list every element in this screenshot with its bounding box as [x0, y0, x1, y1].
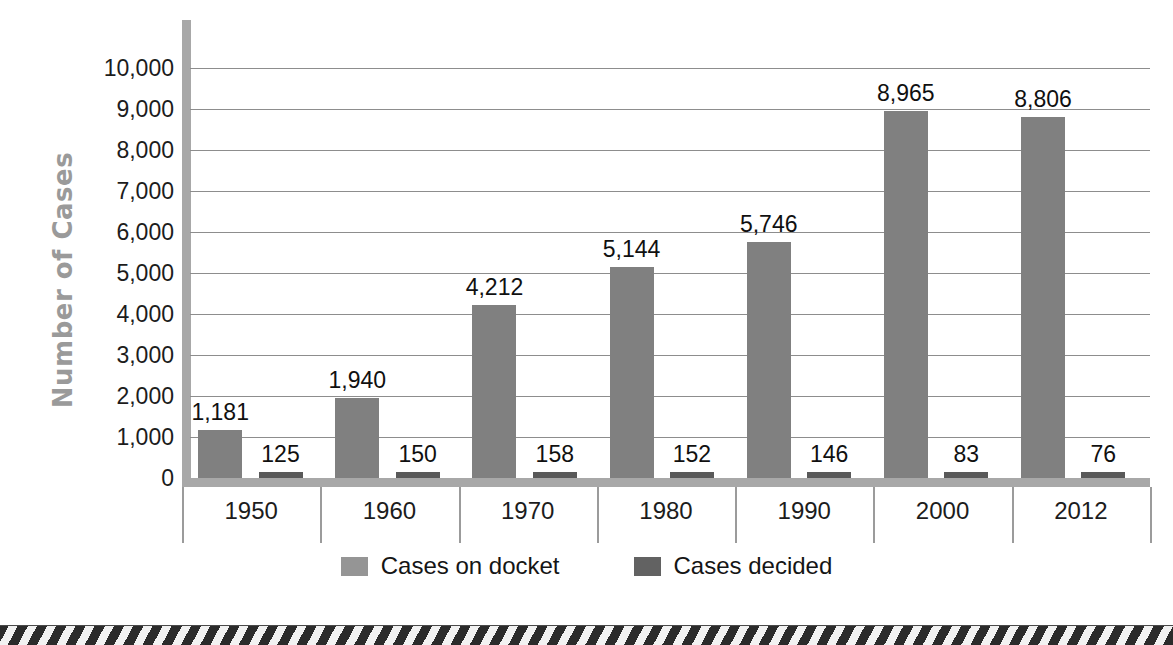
bar-group: 5,144152	[601, 20, 738, 478]
y-tick-label: 2,000	[54, 383, 174, 410]
legend-item[interactable]: Cases on docket	[341, 552, 560, 580]
bar-group: 1,181125	[190, 20, 327, 478]
bar-value-label: 8,806	[1014, 86, 1072, 113]
y-tick-label: 7,000	[54, 178, 174, 205]
x-tick-label: 2000	[873, 497, 1011, 525]
x-axis-category-band: 1950196019701980199020002012	[182, 487, 1150, 543]
bar-value-label: 125	[261, 441, 299, 468]
bar-cases-on-docket[interactable]: 1,181	[198, 430, 242, 478]
legend-label: Cases on docket	[381, 552, 560, 580]
y-tick-label: 8,000	[54, 137, 174, 164]
bar-cases-decided[interactable]: 152	[670, 472, 714, 478]
bar-value-label: 146	[810, 441, 848, 468]
bar-group: 4,212158	[464, 20, 601, 478]
x-tick-label: 2012	[1012, 497, 1150, 525]
y-tick-label: 5,000	[54, 260, 174, 287]
bar-cases-on-docket[interactable]: 5,746	[747, 242, 791, 478]
x-axis-category-cell: 1980	[597, 487, 735, 543]
x-tick-label: 1960	[320, 497, 458, 525]
bar-group: 5,746146	[739, 20, 876, 478]
bar-value-label: 152	[673, 441, 711, 468]
bar-groups: 1,1811251,9401504,2121585,1441525,746146…	[190, 20, 1150, 478]
bar-value-label: 1,181	[191, 399, 249, 426]
bar-cases-decided[interactable]: 76	[1081, 472, 1125, 478]
y-tick-label: 10,000	[54, 55, 174, 82]
x-axis-category-cell: 1970	[459, 487, 597, 543]
bar-value-label: 5,746	[740, 211, 798, 238]
x-axis-line	[182, 478, 1150, 487]
x-axis-category-cell: 2000	[873, 487, 1011, 543]
x-tick-label: 1970	[459, 497, 597, 525]
y-tick-label: 9,000	[54, 96, 174, 123]
legend-label: Cases decided	[674, 552, 833, 580]
bar-group: 8,80676	[1013, 20, 1150, 478]
x-axis-tick-separator	[873, 487, 875, 543]
bar-cases-decided[interactable]: 125	[259, 472, 303, 478]
x-tick-label: 1950	[182, 497, 320, 525]
bar-cases-on-docket[interactable]: 1,940	[335, 398, 379, 478]
x-axis-tick-separator	[182, 487, 184, 543]
y-tick-label: 6,000	[54, 219, 174, 246]
y-tick-label: 4,000	[54, 301, 174, 328]
bar-value-label: 8,965	[877, 80, 935, 107]
x-axis-tick-separator	[1012, 487, 1014, 543]
x-axis-tick-separator	[1150, 487, 1152, 543]
legend-item[interactable]: Cases decided	[634, 552, 833, 580]
x-axis-tick-separator	[597, 487, 599, 543]
y-tick-label: 0	[54, 465, 174, 492]
bar-cases-decided[interactable]: 150	[396, 472, 440, 478]
bar-value-label: 83	[953, 441, 979, 468]
bar-value-label: 76	[1091, 441, 1117, 468]
bar-cases-on-docket[interactable]: 4,212	[472, 305, 516, 478]
x-axis-tick-separator	[320, 487, 322, 543]
bar-group: 1,940150	[327, 20, 464, 478]
bar-value-label: 158	[536, 441, 574, 468]
bar-cases-on-docket[interactable]: 8,806	[1021, 117, 1065, 478]
x-axis-category-cell: 1990	[735, 487, 873, 543]
bar-cases-decided[interactable]: 83	[944, 472, 988, 478]
x-tick-label: 1980	[597, 497, 735, 525]
plot-area: 1,1811251,9401504,2121585,1441525,746146…	[190, 20, 1150, 478]
bar-chart-figure: Number of Cases 01,0002,0003,0004,0005,0…	[0, 0, 1173, 645]
bar-value-label: 5,144	[603, 236, 661, 263]
x-axis-category-cell: 1960	[320, 487, 458, 543]
legend-swatch-icon	[634, 557, 661, 576]
bar-value-label: 150	[398, 441, 436, 468]
chart-legend: Cases on docketCases decided	[0, 552, 1173, 580]
y-axis-tick-labels: 01,0002,0003,0004,0005,0006,0007,0008,00…	[58, 20, 182, 478]
legend-swatch-icon	[341, 557, 368, 576]
y-tick-label: 3,000	[54, 342, 174, 369]
hazard-stripe-footer	[0, 625, 1173, 645]
x-tick-label: 1990	[735, 497, 873, 525]
bar-cases-on-docket[interactable]: 8,965	[884, 111, 928, 478]
bar-cases-on-docket[interactable]: 5,144	[610, 267, 654, 478]
x-axis-category-cell: 2012	[1012, 487, 1150, 543]
bar-cases-decided[interactable]: 158	[533, 472, 577, 478]
x-axis-category-cell: 1950	[182, 487, 320, 543]
x-axis-tick-separator	[459, 487, 461, 543]
y-tick-label: 1,000	[54, 424, 174, 451]
bar-value-label: 4,212	[466, 274, 524, 301]
bar-cases-decided[interactable]: 146	[807, 472, 851, 478]
bar-group: 8,96583	[876, 20, 1013, 478]
bar-value-label: 1,940	[329, 367, 387, 394]
x-axis-tick-separator	[735, 487, 737, 543]
